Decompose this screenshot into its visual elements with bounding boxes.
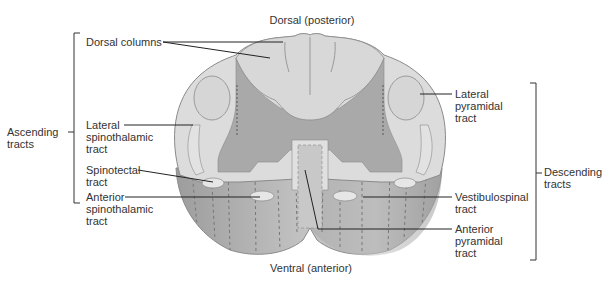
dorsal-orientation-label: Dorsal (posterior) bbox=[262, 14, 362, 26]
lateral-pyramidal-right bbox=[388, 76, 424, 120]
dorsal-columns-label: Dorsal columns bbox=[86, 36, 162, 48]
ascending-tracts-label: Ascending tracts bbox=[7, 126, 58, 150]
lateral-pyramidal-left bbox=[194, 76, 230, 120]
lateral-spinothalamic-label: Lateral spinothalamic tract bbox=[86, 119, 153, 155]
anterior-pyramidal-label: Anterior pyramidal tract bbox=[455, 223, 503, 259]
vestibulospinal-label: Vestibulospinal tract bbox=[455, 191, 528, 215]
ventral-orientation-label: Ventral (anterior) bbox=[259, 262, 363, 274]
ascending-bracket bbox=[68, 33, 80, 203]
spinal-cord-diagram: Dorsal (posterior) Ventral (anterior) As… bbox=[0, 0, 613, 287]
descending-bracket bbox=[530, 83, 542, 260]
descending-tracts-label: Descending tracts bbox=[544, 166, 602, 190]
anterior-spinothalamic-label: Anterior spinothalamic tract bbox=[86, 191, 153, 227]
spinotectal-label: Spinotectal tract bbox=[86, 164, 140, 188]
lateral-pyramidal-label: Lateral pyramidal tract bbox=[455, 88, 503, 124]
